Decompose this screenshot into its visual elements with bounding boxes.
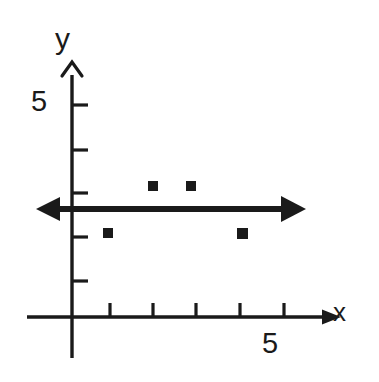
x-axis-tick-label-5: 5: [262, 329, 278, 358]
y-axis-label: y: [55, 24, 70, 54]
data-point-marker: [148, 181, 158, 191]
y-axis-tick-label-5: 5: [31, 87, 47, 116]
y-axis-arrowhead-icon: [62, 62, 82, 76]
data-point-marker: [186, 181, 196, 191]
x-axis-ticks: [110, 303, 284, 317]
x-axis-label: x: [333, 299, 346, 325]
y-axis-ticks: [72, 105, 88, 281]
data-point-marker: [237, 228, 248, 239]
data-point-marker: [103, 228, 113, 238]
coordinate-plane-graphic: [0, 0, 379, 382]
horizontal-line-series: [36, 196, 306, 222]
scatter-plot-figure: y x 5 5: [0, 0, 379, 382]
line-arrowhead-left-icon: [36, 197, 60, 221]
line-arrowhead-right-icon: [281, 196, 306, 222]
